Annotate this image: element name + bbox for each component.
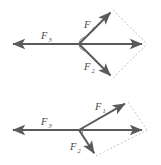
force-diagram-svg: F 1 F 2 F 3 F 1 F 2 F 3 — [0, 0, 161, 165]
canvas-background — [0, 0, 161, 165]
f2-label: F — [69, 141, 77, 152]
figure-container: F 1 F 2 F 3 F 1 F 2 F 3 — [0, 0, 161, 165]
f1-label: F — [94, 101, 102, 112]
f1-subscript: 1 — [103, 107, 106, 114]
f3-label: F — [40, 116, 48, 127]
f2-label: F — [83, 61, 91, 72]
f3-label: F — [40, 30, 48, 41]
f1-label: F — [83, 19, 91, 30]
f1-subscript: 1 — [92, 25, 95, 32]
